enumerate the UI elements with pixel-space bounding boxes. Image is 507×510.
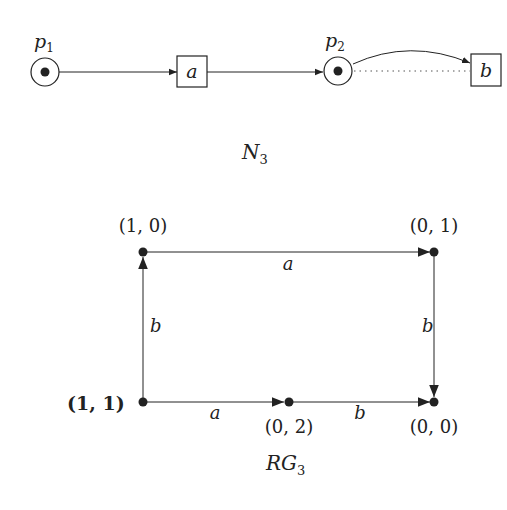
state-node-01 [430,248,439,257]
edge-label-10-01: a [283,253,294,274]
edge-label-11-10: b [150,315,162,336]
place-p2: p2 [324,29,352,85]
edge-label-01-00: b [422,315,434,336]
diagram-canvas: p1 a p2 b N3 [0,0,507,510]
graph-caption: RG3 [265,451,305,478]
place-label-p1: p1 [34,30,54,55]
transition-a: a [177,56,207,87]
transition-label-a: a [186,60,197,82]
state-label-01: (0, 1) [410,215,458,236]
transition-b: b [471,54,501,86]
place-label-p2: p2 [325,29,345,54]
state-node-10 [139,248,148,257]
state-label-00: (0, 0) [410,416,458,437]
edge-label-11-02: a [210,402,221,423]
place-p1: p1 [31,30,59,86]
token-icon [334,67,343,76]
petri-net: p1 a p2 b N3 [31,29,501,167]
token-icon [41,68,50,77]
transition-label-b: b [480,59,492,81]
state-node-11 [139,398,148,407]
state-node-00 [430,398,439,407]
edge-label-02-00: b [354,402,366,423]
reachability-graph: (1, 1) (1, 0) (0, 1) (0, 2) (0, 0) b a b… [67,215,458,478]
net-caption: N3 [241,140,268,167]
state-node-02 [285,398,294,407]
state-label-11: (1, 1) [67,392,125,414]
state-label-10: (1, 0) [119,215,167,236]
state-label-02: (0, 2) [265,416,313,437]
arc-p2-b-curved [353,51,470,64]
